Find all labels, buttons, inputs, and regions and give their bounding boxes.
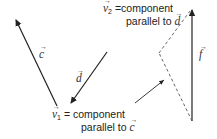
- v1-annotation-line2: parallel to c: [81, 122, 135, 133]
- vector-c-label: c: [39, 49, 44, 60]
- v1-pointer-arrow: [135, 80, 164, 103]
- dashed-component-v1: [159, 53, 192, 121]
- vector-c-arrow: [16, 20, 57, 106]
- v1-symbol: v: [52, 108, 57, 120]
- vector-d-label: d: [76, 73, 82, 84]
- v2-annotation-line2: parallel to d: [126, 16, 180, 27]
- vector-f-label: f: [199, 49, 202, 60]
- v2-symbol: v: [103, 2, 108, 14]
